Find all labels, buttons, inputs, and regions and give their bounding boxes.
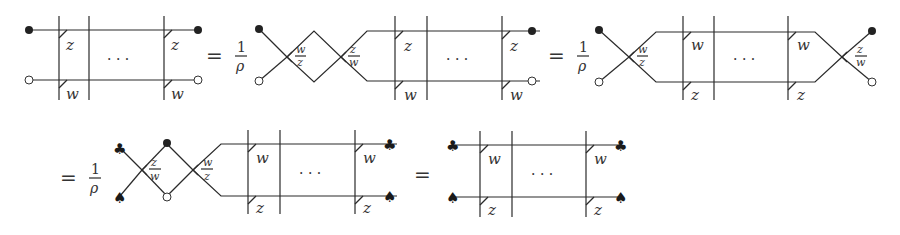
- diagram-canvas: z w z w · · · = 1 ρ w z z w: [0, 0, 900, 235]
- equals-sign: =: [548, 44, 565, 68]
- club-icon: ♣: [383, 136, 396, 154]
- ellipsis: · · ·: [299, 165, 321, 181]
- prefactor-denominator: ρ: [89, 180, 99, 196]
- ellipsis: · · ·: [733, 51, 755, 67]
- crossing-num: z: [150, 156, 157, 169]
- open-dot-icon: [595, 78, 603, 86]
- ellipsis: · · ·: [107, 51, 129, 67]
- spectral-label: z: [593, 201, 602, 219]
- spectral-label: w: [797, 36, 810, 54]
- spectral-label: z: [65, 36, 74, 54]
- spectral-label: w: [488, 150, 501, 168]
- crossing-num: z: [856, 43, 863, 56]
- spectral-label: z: [403, 37, 412, 55]
- spade-icon: ♠: [446, 189, 459, 207]
- open-dot-icon: [25, 76, 33, 84]
- spectral-label: w: [594, 150, 607, 168]
- club-icon: ♣: [446, 137, 459, 155]
- crossing-num: z: [349, 43, 356, 56]
- filled-dot-icon: [868, 27, 876, 35]
- club-icon: ♣: [614, 137, 627, 155]
- prefactor-numerator: 1: [579, 39, 588, 55]
- open-dot-icon: [255, 77, 263, 85]
- filled-dot-icon: [194, 26, 202, 34]
- open-dot-icon: [194, 76, 202, 84]
- crossing-den: w: [856, 56, 866, 69]
- filled-dot-icon: [163, 139, 171, 147]
- crossing-den: z: [638, 56, 645, 69]
- filled-dot-icon: [255, 25, 263, 33]
- spectral-label: z: [487, 201, 496, 219]
- crossing-num: w: [638, 43, 648, 56]
- spectral-label: w: [510, 86, 523, 104]
- filled-dot-icon: [528, 27, 536, 35]
- filled-dot-icon: [25, 26, 33, 34]
- spade-icon: ♠: [383, 188, 396, 206]
- lhs-lattice: z w z w · · ·: [25, 16, 202, 103]
- spectral-label: z: [796, 86, 805, 104]
- spectral-label: w: [404, 86, 417, 104]
- term3: = 1 ρ w z z w w z w z · · ·: [548, 16, 876, 104]
- open-dot-icon: [163, 193, 171, 201]
- spectral-label: z: [170, 36, 179, 54]
- crossing-den: w: [349, 56, 359, 69]
- prefactor-numerator: 1: [237, 39, 246, 55]
- spectral-label: w: [691, 36, 704, 54]
- ellipsis: · · ·: [531, 166, 553, 182]
- filled-dot-icon: [595, 26, 603, 34]
- spectral-label: w: [171, 85, 184, 103]
- spade-icon: ♠: [614, 189, 627, 207]
- term2: = 1 ρ w z z w z w z w · · ·: [206, 16, 540, 104]
- spectral-label: w: [66, 85, 79, 103]
- spectral-label: w: [363, 149, 376, 167]
- spectral-label: z: [362, 199, 371, 217]
- prefactor-numerator: 1: [91, 161, 100, 177]
- equals-sign: =: [414, 163, 431, 187]
- open-dot-icon: [868, 78, 876, 86]
- crossing-den: z: [296, 56, 303, 69]
- prefactor-denominator: ρ: [235, 58, 245, 74]
- spade-icon: ♠: [113, 189, 126, 207]
- spectral-label: w: [256, 149, 269, 167]
- equals-sign: =: [60, 166, 77, 190]
- crossing-num: w: [203, 156, 213, 169]
- crossing-den: z: [203, 170, 210, 183]
- club-icon: ♣: [113, 140, 126, 158]
- prefactor-denominator: ρ: [577, 58, 587, 74]
- spectral-label: z: [690, 86, 699, 104]
- spectral-label: z: [509, 37, 518, 55]
- term4: = 1 ρ ♣ ♠ z w w z w z w: [60, 130, 397, 217]
- equals-sign: =: [206, 44, 223, 68]
- crossing-num: w: [296, 43, 306, 56]
- ellipsis: · · ·: [446, 51, 468, 67]
- spectral-label: z: [255, 199, 264, 217]
- term5: = ♣ ♠ ♣ ♠ w z w z · · ·: [414, 131, 627, 219]
- crossing-den: w: [150, 170, 160, 183]
- open-dot-icon: [528, 77, 536, 85]
